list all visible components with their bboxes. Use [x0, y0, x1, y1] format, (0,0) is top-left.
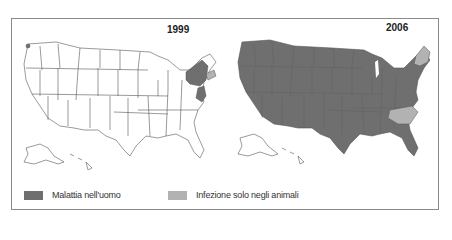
- state-new-york: [186, 60, 208, 86]
- map-year-2006: 2006: [386, 22, 408, 33]
- hawaii: [282, 148, 304, 164]
- legend-swatch-human: [24, 191, 43, 200]
- legend-swatch-animal: [168, 191, 187, 200]
- map-2006: [232, 38, 437, 168]
- legend-label-animal: Infezione solo negli animali: [196, 190, 298, 200]
- state-washington-spot: [26, 44, 30, 48]
- map-1999: [18, 40, 223, 170]
- legend-item-animal: Infezione solo negli animali: [168, 190, 298, 200]
- alaska: [238, 134, 278, 156]
- legend-label-human: Malattia nell'uomo: [52, 190, 121, 200]
- map-year-1999: 1999: [167, 24, 189, 35]
- hawaii: [70, 154, 92, 170]
- legend-item-human: Malattia nell'uomo: [24, 190, 121, 200]
- alaska: [24, 144, 64, 164]
